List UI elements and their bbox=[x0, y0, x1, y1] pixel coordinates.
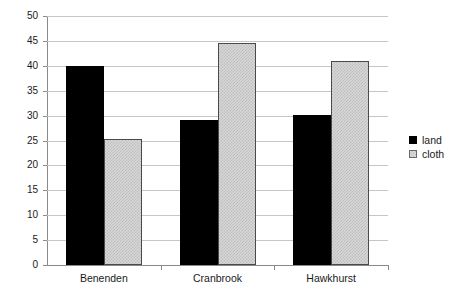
legend-label-cloth: cloth bbox=[422, 147, 444, 161]
y-tick-label-5: 5 bbox=[2, 235, 38, 245]
legend-item-land[interactable]: land bbox=[409, 133, 444, 147]
x-label-cranbrook: Cranbrook bbox=[161, 272, 275, 284]
y-tick-label-10: 10 bbox=[2, 210, 38, 220]
bar-land-hawkhurst bbox=[293, 115, 331, 265]
bar-cloth-cranbrook bbox=[218, 43, 256, 265]
y-tick-label-15: 15 bbox=[2, 185, 38, 195]
y-tick-label-50: 50 bbox=[2, 11, 38, 21]
x-label-hawkhurst: Hawkhurst bbox=[274, 272, 388, 284]
bar-land-benenden bbox=[66, 66, 104, 265]
cropped-title-remnant: · · · · · bbox=[104, 0, 354, 4]
y-tick-label-45: 45 bbox=[2, 36, 38, 46]
y-tick-label-0: 0 bbox=[2, 260, 38, 270]
category-separator-2 bbox=[274, 265, 275, 270]
x-label-benenden: Benenden bbox=[47, 272, 161, 284]
legend-label-land: land bbox=[422, 133, 442, 147]
gridline-0 bbox=[47, 265, 388, 266]
plot-area bbox=[47, 16, 388, 265]
bar-cloth-benenden bbox=[104, 139, 142, 265]
y-tick-label-30: 30 bbox=[2, 111, 38, 121]
legend-item-cloth[interactable]: cloth bbox=[409, 147, 444, 161]
bar-chart: · · · · · 05101520253035404550 BenendenC… bbox=[0, 0, 459, 299]
y-tick-label-35: 35 bbox=[2, 86, 38, 96]
gridline-50 bbox=[47, 16, 388, 17]
y-tick-label-25: 25 bbox=[2, 136, 38, 146]
legend-swatch-land-icon bbox=[409, 136, 417, 144]
legend: land cloth bbox=[409, 133, 444, 161]
gridline-45 bbox=[47, 41, 388, 42]
y-tick-label-40: 40 bbox=[2, 61, 38, 71]
bar-land-cranbrook bbox=[180, 120, 218, 265]
bar-cloth-hawkhurst bbox=[331, 61, 369, 265]
legend-swatch-cloth-icon bbox=[409, 150, 417, 158]
category-separator-1 bbox=[161, 265, 162, 270]
y-tick-label-20: 20 bbox=[2, 160, 38, 170]
category-separator-end bbox=[388, 265, 389, 270]
